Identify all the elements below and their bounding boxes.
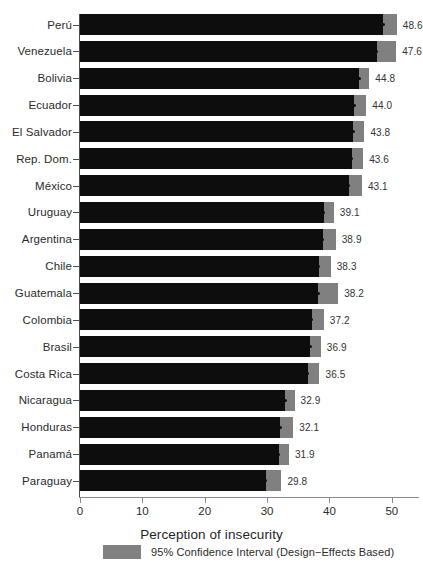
category-label: Chile [45,260,72,272]
bar-row: 43.6 [80,148,423,169]
bar-value-label: 38.9 [342,234,362,245]
y-axis-tick [73,78,79,79]
category-label: Argentina [22,233,72,245]
value-bar [80,229,323,250]
insecurity-perception-bar-chart: PerúVenezuelaBoliviaEcuadorEl SalvadorRe… [0,0,423,574]
category-label: México [35,180,72,192]
bar-row: 32.1 [80,417,423,438]
category-label: Honduras [21,421,72,433]
bar-row: 36.9 [80,336,423,357]
value-bar [80,41,377,62]
bar-value-label: 38.2 [344,288,364,299]
y-axis-tick [73,186,79,187]
bar-value-label: 44.0 [372,100,392,111]
category-label: Guatemala [15,287,72,299]
y-axis-tick [73,454,79,455]
value-bar [80,444,279,465]
bar-row: 43.8 [80,121,423,142]
y-axis-tick [73,51,79,52]
y-axis-tick [73,159,79,160]
bar-value-label: 47.6 [402,46,422,57]
category-label: Panamá [29,448,72,460]
bar-row: 44.8 [80,68,423,89]
category-label: Perú [47,19,72,31]
bar-row: 38.3 [80,256,423,277]
value-bar [80,202,324,223]
y-axis-tick [73,212,79,213]
category-label: Nicaragua [19,394,72,406]
category-label: Paraguay [22,475,72,487]
bar-row: 31.9 [80,444,423,465]
x-axis-tick-label: 30 [261,505,274,517]
value-bar [80,417,280,438]
bar-value-label: 36.5 [325,368,345,379]
bar-row: 38.2 [80,283,423,304]
value-bar [80,336,310,357]
y-axis-tick [73,427,79,428]
category-axis-labels: PerúVenezuelaBoliviaEcuadorEl SalvadorRe… [0,0,72,574]
x-axis-tick-label: 0 [77,505,83,517]
y-axis-tick [73,239,79,240]
y-axis-tick [73,400,79,401]
bar-value-label: 37.2 [330,314,350,325]
legend-swatch-ci [103,545,141,559]
point-estimate-dot [317,292,320,295]
bar-row: 36.5 [80,363,423,384]
x-axis-tick-label: 40 [323,505,336,517]
category-label: Brasil [43,341,72,353]
x-axis-tick-label: 20 [198,505,211,517]
bar-value-label: 44.8 [375,73,395,84]
bar-value-label: 43.6 [369,153,389,164]
x-axis-tick-mark [329,497,330,503]
bar-value-label: 32.1 [299,422,319,433]
x-axis-tick-label: 50 [385,505,398,517]
value-bar [80,363,308,384]
point-estimate-dot [279,426,282,429]
x-axis-tick-mark [267,497,268,503]
category-label: Colombia [23,314,72,326]
legend-label-ci: 95% Confidence Interval (Design−Effects … [151,546,394,558]
point-estimate-dot [358,77,361,80]
bar-value-label: 38.3 [337,261,357,272]
value-bar [80,283,318,304]
category-label: El Salvador [12,126,72,138]
bar-value-label: 48.6 [403,19,423,30]
category-label: Venezuela [17,45,72,57]
bar-value-label: 39.1 [340,207,360,218]
value-bar [80,470,266,491]
y-axis-tick [73,320,79,321]
y-axis-tick [73,266,79,267]
x-axis-tick-mark [392,497,393,503]
x-axis-tick-mark [205,497,206,503]
x-axis-tick-mark [80,497,81,503]
bar-value-label: 43.1 [368,180,388,191]
point-estimate-dot [309,345,312,348]
bar-row: 48.6 [80,14,423,35]
y-axis-tick [73,25,79,26]
value-bar [80,175,349,196]
point-estimate-dot [382,23,385,26]
bar-row: 38.9 [80,229,423,250]
x-axis-tick-label: 10 [136,505,149,517]
value-bar [80,95,354,116]
bar-row: 47.6 [80,41,423,62]
bar-value-label: 32.9 [301,395,321,406]
point-estimate-dot [284,399,287,402]
point-estimate-dot [321,238,324,241]
value-bar [80,68,359,89]
bar-row: 29.8 [80,470,423,491]
point-estimate-dot [353,104,356,107]
bar-value-label: 31.9 [295,449,315,460]
bar-value-label: 36.9 [327,341,347,352]
bar-value-label: 29.8 [287,475,307,486]
y-axis-tick [73,132,79,133]
value-bar [80,121,353,142]
plot-area: 48.647.644.844.043.843.643.139.138.938.3… [80,14,423,497]
value-bar [80,309,312,330]
chart-legend: 95% Confidence Interval (Design−Effects … [103,545,394,559]
bar-value-label: 43.8 [370,126,390,137]
value-bar [80,148,352,169]
y-axis-tick [73,347,79,348]
bar-row: 39.1 [80,202,423,223]
x-axis-title: Perception of insecurity [0,527,423,542]
